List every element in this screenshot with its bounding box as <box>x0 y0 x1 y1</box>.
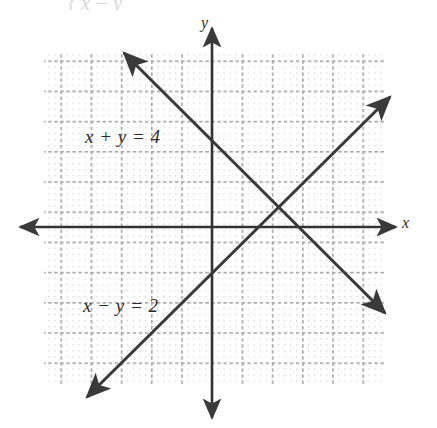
graph-figure: { x − y <box>0 0 437 428</box>
grid-layer <box>44 53 385 385</box>
equation-label-x-minus-y-equals-2: x − y = 2 <box>83 295 159 317</box>
major-grid-horizontal <box>44 53 385 385</box>
equation-label-x-plus-y-equals-4: x + y = 4 <box>85 126 161 148</box>
coordinate-plane-svg <box>0 0 437 428</box>
x-axis-label: x <box>402 214 409 232</box>
y-axis-label: y <box>201 14 208 32</box>
